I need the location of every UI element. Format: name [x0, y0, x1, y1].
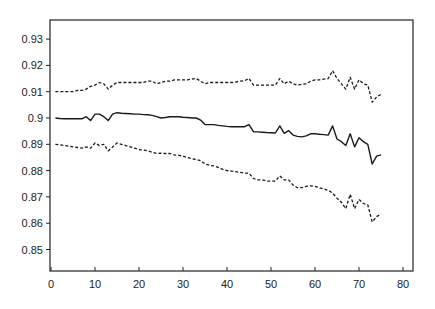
x-tick-label: 20: [133, 278, 145, 290]
y-tick-label: 0.92: [22, 59, 43, 71]
y-tick-label: 0.86: [22, 217, 43, 229]
plot-frame: [50, 20, 413, 271]
x-tick-label: 50: [265, 278, 277, 290]
y-tick-label: 0.93: [22, 33, 43, 45]
x-tick-label: 10: [89, 278, 101, 290]
y-axis: 0.850.860.870.880.890.90.910.920.93: [22, 33, 50, 255]
x-tick-label: 80: [397, 278, 409, 290]
x-tick-label: 70: [353, 278, 365, 290]
x-tick-label: 40: [221, 278, 233, 290]
series-line-upper: [55, 71, 381, 103]
y-tick-label: 0.88: [22, 165, 43, 177]
x-tick-label: 60: [309, 278, 321, 290]
y-tick-label: 0.87: [22, 191, 43, 203]
x-tick-label: 30: [177, 278, 189, 290]
series-line-lower: [55, 143, 381, 222]
y-tick-label: 0.89: [22, 138, 43, 150]
y-tick-label: 0.9: [28, 112, 43, 124]
x-tick-label: 0: [48, 278, 54, 290]
series-group: [55, 71, 381, 222]
y-tick-label: 0.91: [22, 86, 43, 98]
series-line-center: [55, 113, 381, 164]
line-chart: 0.850.860.870.880.890.90.910.920.93 0102…: [0, 0, 435, 309]
y-tick-label: 0.85: [22, 244, 43, 256]
